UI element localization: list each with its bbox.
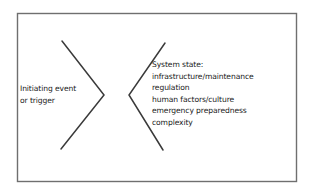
initiating-event-label: Initiating event or trigger — [20, 83, 76, 106]
right-text-line-2: infrastructure/maintenance — [152, 71, 254, 83]
left-text-line-2: or trigger — [20, 95, 76, 107]
right-text-line-5: emergency preparedness — [152, 105, 254, 117]
left-text-line-1: Initiating event — [20, 83, 76, 95]
diagram-canvas: Initiating event or trigger System state… — [0, 0, 314, 194]
system-state-label: System state: infrastructure/maintenance… — [152, 59, 254, 129]
right-text-line-1: System state: — [152, 59, 254, 71]
right-text-line-3: regulation — [152, 82, 254, 94]
right-text-line-6: complexity — [152, 117, 254, 129]
right-text-line-4: human factors/culture — [152, 94, 254, 106]
